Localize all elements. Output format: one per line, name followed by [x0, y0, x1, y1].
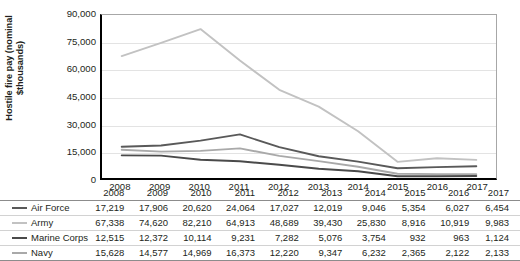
table-column-header: 2012	[266, 186, 310, 201]
legend-entry: Air Force	[2, 201, 92, 215]
y-axis-title: Hostile fire pay (nominal $thousands)	[4, 0, 44, 138]
legend-label: Marine Corps	[31, 231, 88, 245]
table-cell: 39,430	[310, 216, 354, 231]
table-cell: 8,916	[397, 216, 437, 231]
table-cell: 2,365	[397, 246, 437, 261]
table-cell: 963	[437, 231, 481, 246]
table-cell: 5,354	[397, 201, 437, 216]
table-column-header: 2009	[135, 186, 179, 201]
table-cell: 74,620	[135, 216, 179, 231]
table-cell: 25,830	[353, 216, 397, 231]
legend-line-icon	[12, 222, 27, 224]
y-tick-label: 15,000	[42, 147, 96, 157]
table-cell: 12,220	[266, 246, 310, 261]
y-tick-label: 45,000	[42, 92, 96, 102]
legend-entry: Navy	[2, 246, 92, 260]
table-column-header: 2015	[397, 186, 437, 201]
series-line	[122, 29, 477, 162]
table-column-header: 2008	[92, 186, 136, 201]
legend-label: Navy	[31, 246, 53, 260]
table-row-header: Air Force	[0, 201, 92, 216]
table-cell: 9,231	[223, 231, 267, 246]
legend-line-icon	[12, 207, 27, 209]
table-row-header: Army	[0, 216, 92, 231]
table-cell: 82,210	[179, 216, 223, 231]
table-cell: 2,133	[480, 246, 520, 261]
y-tick-label: 30,000	[42, 120, 96, 130]
legend-entry: Marine Corps	[2, 231, 92, 245]
table-cell: 48,689	[266, 216, 310, 231]
table-header: 2008200920102011201220132014201520162017	[0, 186, 520, 201]
table-column-header: 2014	[353, 186, 397, 201]
table-row: Air Force17,21917,90620,62024,06417,0271…	[0, 201, 520, 216]
table-column-header: 2010	[179, 186, 223, 201]
table-corner-header	[0, 186, 92, 201]
table-cell: 10,919	[437, 216, 481, 231]
table-cell: 14,577	[135, 246, 179, 261]
legend-line-icon	[12, 252, 27, 254]
table-cell: 6,454	[480, 201, 520, 216]
table-cell: 3,754	[353, 231, 397, 246]
table-row: Marine Corps12,51512,37210,1149,2317,282…	[0, 231, 520, 246]
table-cell: 15,628	[92, 246, 136, 261]
table-cell: 16,373	[223, 246, 267, 261]
table-column-header: 2013	[310, 186, 354, 201]
table-cell: 17,219	[92, 201, 136, 216]
table-cell: 67,338	[92, 216, 136, 231]
table-cell: 9,347	[310, 246, 354, 261]
legend-label: Army	[31, 216, 53, 230]
table-cell: 7,282	[266, 231, 310, 246]
table-cell: 12,019	[310, 201, 354, 216]
table-cell: 17,027	[266, 201, 310, 216]
table-cell: 10,114	[179, 231, 223, 246]
table-cell: 14,969	[179, 246, 223, 261]
line-chart: Hostile fire pay (nominal $thousands) 01…	[0, 0, 520, 186]
table-row-header: Navy	[0, 246, 92, 261]
table-cell: 17,906	[135, 201, 179, 216]
table-cell: 2,122	[437, 246, 481, 261]
legend-entry: Army	[2, 216, 92, 230]
table-column-header: 2017	[480, 186, 520, 201]
table-column-header: 2011	[223, 186, 267, 201]
plot-area	[100, 14, 497, 180]
y-tick-label: 75,000	[42, 37, 96, 47]
legend-line-icon	[12, 237, 27, 239]
table-cell: 64,913	[223, 216, 267, 231]
legend-label: Air Force	[31, 201, 70, 215]
table-cell: 6,232	[353, 246, 397, 261]
data-table: 2008200920102011201220132014201520162017…	[0, 186, 520, 261]
y-tick-label: 90,000	[42, 9, 96, 19]
table-cell: 12,372	[135, 231, 179, 246]
table-cell: 6,027	[437, 201, 481, 216]
table-body: Air Force17,21917,90620,62024,06417,0271…	[0, 201, 520, 261]
table-header-row: 2008200920102011201220132014201520162017	[0, 186, 520, 201]
table-cell: 1,124	[480, 231, 520, 246]
table-cell: 932	[397, 231, 437, 246]
y-axis-tick-labels: 015,00030,00045,00060,00075,00090,000	[40, 0, 96, 186]
table-cell: 20,620	[179, 201, 223, 216]
plot-inner	[102, 15, 496, 178]
y-tick-label: 60,000	[42, 64, 96, 74]
series-lines	[102, 15, 496, 178]
y-tick-label: 0	[42, 175, 96, 185]
table-cell: 9,046	[353, 201, 397, 216]
table-row: Navy15,62814,57714,96916,37312,2209,3476…	[0, 246, 520, 261]
table-cell: 9,983	[480, 216, 520, 231]
table-row: Army67,33874,62082,21064,91348,68939,430…	[0, 216, 520, 231]
table-cell: 5,076	[310, 231, 354, 246]
table-column-header: 2016	[437, 186, 481, 201]
table-cell: 24,064	[223, 201, 267, 216]
table-cell: 12,515	[92, 231, 136, 246]
table-row-header: Marine Corps	[0, 231, 92, 246]
